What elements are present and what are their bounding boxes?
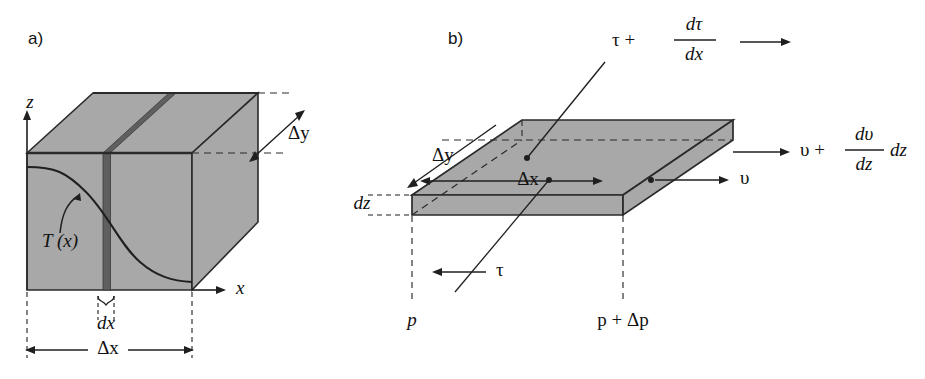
panel-b-letter: b) [448,29,463,48]
pressure-left-label: p [405,309,417,330]
velocity-anchor-dot [648,177,654,183]
velocity-top-arrowhead [780,148,790,156]
velocity-top-denominator: dz [856,153,874,174]
dz-label: dz [354,192,372,213]
figure-canvas: a) z x Δy dx Δx T (x) [0,0,925,379]
delta-y-label-b: Δy [432,144,454,165]
shear-top-numerator: dτ [686,13,704,34]
velocity-top-numerator: dυ [855,123,874,144]
delta-x-label-b: Δx [517,168,539,189]
panel-b-group: b) τ + dτ dx υ + dυ dz dz υ τ Δy Δx dz p… [354,13,908,330]
delta-y-label: Δy [288,122,310,143]
panel-a-letter: a) [28,29,43,48]
temperature-curve-label: T (x) [42,230,78,252]
velocity-bottom-arrowhead [719,176,729,184]
dx-brace [98,296,114,305]
shear-bottom-arrowhead [432,268,442,276]
dx-label: dx [97,312,116,333]
slab-front-face [412,195,623,215]
shear-top-denominator: dx [685,43,704,64]
shear-top-arrowhead [781,38,791,46]
z-axis-label: z [25,91,34,112]
shear-top-anchor-dot [524,155,530,161]
delta-y-arrowhead-upper [295,110,305,121]
velocity-top-base-label: υ + [800,139,825,160]
pressure-right-label: p + Δp [597,309,648,330]
panel-a-group: a) z x Δy dx Δx T (x) [23,29,310,358]
delta-y-arrowhead-b [407,178,418,188]
diagram-svg: a) z x Δy dx Δx T (x) [0,0,925,379]
shear-bottom-anchor-dot [546,177,552,183]
shear-top-base-label: τ + [612,29,635,50]
delta-x-label: Δx [97,337,119,358]
velocity-bottom-label: υ [740,167,749,188]
velocity-top-suffix: dz [890,139,908,160]
x-axis-arrowhead [216,286,226,294]
shear-bottom-label: τ [496,259,504,280]
x-axis-label: x [235,277,245,298]
